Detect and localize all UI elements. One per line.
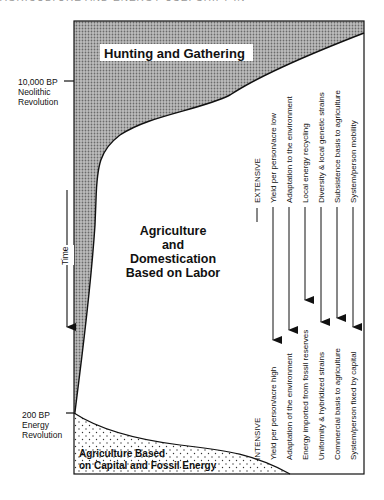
extensive-item-6: System/person mobility xyxy=(349,120,358,203)
intensive-item-4: Uniformity & hybridized strains xyxy=(317,352,326,460)
energy-label-2: Revolution xyxy=(22,430,62,440)
intensive-heading: INTENSIVE xyxy=(253,418,262,460)
neolithic-date: 10,000 BP xyxy=(18,77,58,87)
intensive-item-1: Yield per person/acre high xyxy=(269,367,278,460)
neolithic-label-2: Revolution xyxy=(18,97,58,107)
intensive-item-5: Commercial basis to agriculture xyxy=(333,347,342,460)
extensive-item-1: Yield per person/acre low xyxy=(269,113,278,203)
labor-label-1: Agriculture xyxy=(140,224,207,238)
extensive-item-2: Adaptation to the environment xyxy=(285,95,294,203)
extensive-item-3: Local energy recycling xyxy=(301,123,310,203)
intensive-item-3: Energy imported from fossil reserves xyxy=(301,330,310,460)
time-label: Time xyxy=(60,246,70,265)
capital-label-2: on Capital and Fossil Energy xyxy=(79,460,217,471)
intensive-item-2: Adaptation of the environment xyxy=(285,352,294,460)
capital-label-1: Agriculture Based xyxy=(79,448,165,459)
subsistence-diagram: Hunting and Gathering 10,000 BP Neolithi… xyxy=(0,0,384,500)
extensive-heading: EXTENSIVE xyxy=(253,158,262,203)
energy-date: 200 BP xyxy=(22,410,50,420)
neolithic-label-1: Neolithic xyxy=(18,87,51,97)
extensive-item-4: Diversity & local genetic strains xyxy=(317,92,326,203)
energy-label-1: Energy xyxy=(22,420,50,430)
extensive-item-5: Subsistence basis to agriculture xyxy=(333,90,342,204)
labor-label-2: and xyxy=(162,238,184,252)
intensive-item-6: System/person fixed by capital xyxy=(349,351,358,460)
hunting-gathering-label: Hunting and Gathering xyxy=(104,46,245,61)
labor-label-4: Based on Labor xyxy=(126,266,221,280)
labor-label-3: Domestication xyxy=(130,252,216,266)
